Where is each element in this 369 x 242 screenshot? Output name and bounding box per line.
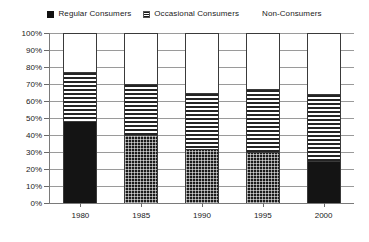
bar-1980 xyxy=(63,33,97,203)
x-axis-tick xyxy=(324,203,325,207)
y-axis-tick-label: 80% xyxy=(8,63,42,72)
bar-1995 xyxy=(246,33,280,203)
bar-segment xyxy=(308,94,340,160)
bar-segment xyxy=(186,93,218,149)
y-axis-tick xyxy=(44,33,49,34)
x-axis-tick xyxy=(141,203,142,207)
bar-segment xyxy=(64,121,96,203)
y-axis-tick xyxy=(44,135,49,136)
bar-segment xyxy=(125,84,157,135)
bar-segment xyxy=(247,89,279,152)
x-axis-tick xyxy=(202,203,203,207)
y-axis-tick xyxy=(44,203,49,204)
y-axis-tick xyxy=(44,50,49,51)
x-axis-tick-label: 1985 xyxy=(132,211,150,221)
y-axis-tick xyxy=(44,169,49,170)
bar-1985 xyxy=(124,33,158,203)
y-axis-tick-label: 0% xyxy=(8,199,42,208)
bar-segment xyxy=(308,161,340,204)
bar-segment xyxy=(186,33,218,93)
y-axis-tick xyxy=(44,101,49,102)
y-axis-tick-label: 30% xyxy=(8,148,42,157)
y-axis-tick xyxy=(44,67,49,68)
y-axis-tick-label: 60% xyxy=(8,97,42,106)
y-axis-tick-label: 40% xyxy=(8,131,42,140)
legend-label: Regular Consumers xyxy=(58,9,131,19)
legend-entry-1: Occasional Consumers xyxy=(143,9,239,19)
bar-segment xyxy=(64,33,96,72)
x-axis-tick-label: 2000 xyxy=(315,211,333,221)
x-axis-tick-label: 1995 xyxy=(254,211,272,221)
bar-segment xyxy=(186,149,218,203)
y-axis-tick-label: 90% xyxy=(8,46,42,55)
plot-area: 100%90%80%70%60%50%40%30%20%10%0%1980198… xyxy=(49,33,354,204)
x-axis-tick-label: 1980 xyxy=(71,211,89,221)
legend-label: Occasional Consumers xyxy=(154,9,239,19)
chart-legend: Regular ConsumersOccasional ConsumersNon… xyxy=(0,6,369,22)
y-axis-tick xyxy=(44,84,49,85)
bar-segment xyxy=(64,72,96,121)
bar-segment xyxy=(247,33,279,89)
y-axis-tick xyxy=(44,186,49,187)
bar-segment xyxy=(125,33,157,84)
x-axis-tick xyxy=(80,203,81,207)
bar-segment xyxy=(125,135,157,203)
solid-black-square-icon xyxy=(47,11,54,18)
y-axis-tick xyxy=(44,118,49,119)
y-axis-tick-label: 10% xyxy=(8,182,42,191)
legend-entry-2: Non-Consumers xyxy=(251,9,322,19)
x-axis-tick xyxy=(263,203,264,207)
y-axis-tick-label: 70% xyxy=(8,80,42,89)
x-axis-tick-label: 1990 xyxy=(193,211,211,221)
y-axis-tick-label: 100% xyxy=(8,29,42,38)
horizontal-lines-square-icon xyxy=(143,11,150,18)
y-axis-tick-label: 20% xyxy=(8,165,42,174)
bar-segment xyxy=(247,152,279,203)
bar-1990 xyxy=(185,33,219,203)
bar-segment xyxy=(308,33,340,94)
bar-2000 xyxy=(307,33,341,203)
legend-entry-0: Regular Consumers xyxy=(47,9,131,19)
legend-label: Non-Consumers xyxy=(262,9,322,19)
y-axis-tick xyxy=(44,152,49,153)
white-square-icon xyxy=(251,11,258,18)
y-axis-tick-label: 50% xyxy=(8,114,42,123)
